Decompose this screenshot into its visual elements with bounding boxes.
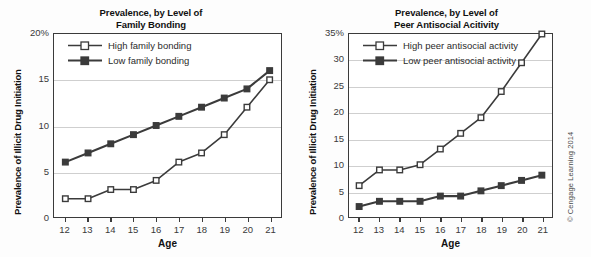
x-axis-tick-mark	[65, 218, 66, 222]
data-point-marker	[85, 150, 91, 156]
data-point-marker	[131, 187, 137, 193]
x-axis-tick-mark	[543, 218, 544, 222]
legend-item-low-family-bonding: Low family bonding	[68, 53, 191, 68]
data-point-marker	[85, 196, 91, 202]
legend-label: Low peer antisocial activity	[403, 55, 516, 66]
legend-item-high-family-bonding: High family bonding	[68, 38, 191, 53]
x-axis-tick-label: 12	[54, 225, 76, 235]
chart-title-line-1: Prevalence, by Level of	[20, 7, 282, 19]
x-axis-tick-label: 17	[450, 225, 472, 235]
x-axis-tick-label: 21	[260, 225, 282, 235]
data-point-marker	[63, 196, 69, 202]
x-axis-tick-mark	[502, 218, 503, 222]
chart-title-family-bonding: Prevalence, by Level of Family Bonding	[20, 7, 282, 30]
data-point-marker	[458, 131, 464, 137]
legend-peer-antisocial-activity: High peer antisocial activity Low peer a…	[363, 38, 518, 68]
data-point-marker	[397, 167, 403, 173]
y-axis-label-left: Prevalence of Illicit Drug Initiation	[12, 69, 23, 215]
data-point-marker	[199, 104, 205, 110]
data-point-marker	[397, 199, 403, 205]
two-panel-line-chart-figure: Prevalence, by Level of Family Bonding P…	[0, 0, 591, 257]
x-axis-tick-mark	[522, 218, 523, 222]
x-axis-tick-mark	[379, 218, 380, 222]
x-axis-label-left: Age	[53, 238, 282, 249]
series-low	[356, 172, 544, 209]
series-low	[63, 68, 273, 165]
x-axis-tick-label: 18	[470, 225, 492, 235]
y-axis-tick-label: 15	[306, 134, 344, 144]
x-axis-tick-mark	[225, 218, 226, 222]
chart-title-peer-antisocial-activity: Prevalence, by Level of Peer Antisocial …	[316, 7, 577, 30]
data-point-marker	[199, 150, 205, 156]
legend-marker-open-square-icon	[68, 40, 102, 51]
x-axis-tick-mark	[271, 218, 272, 222]
y-axis-tick-label: 15	[11, 74, 49, 84]
x-axis-tick-label: 18	[191, 225, 213, 235]
x-axis-tick-label: 14	[99, 225, 121, 235]
x-axis-tick-label: 12	[347, 225, 369, 235]
x-axis-tick-mark	[461, 218, 462, 222]
chart-title-line-1: Prevalence, by Level of	[316, 7, 577, 19]
data-point-marker	[539, 31, 545, 37]
x-axis-tick-label: 20	[237, 225, 259, 235]
data-point-marker	[438, 146, 444, 152]
x-axis-tick-label: 19	[491, 225, 513, 235]
legend-label: High peer antisocial activity	[403, 40, 518, 51]
y-axis-tick-label: 20%	[11, 28, 49, 38]
data-point-marker	[438, 193, 444, 199]
x-axis-tick-mark	[481, 218, 482, 222]
data-point-marker	[478, 188, 484, 194]
x-axis-tick-label: 19	[214, 225, 236, 235]
data-point-marker	[417, 199, 423, 205]
x-axis-tick-label: 13	[76, 225, 98, 235]
chart-panel-family-bonding: Prevalence, by Level of Family Bonding P…	[0, 0, 296, 257]
data-point-marker	[458, 193, 464, 199]
x-axis-tick-mark	[156, 218, 157, 222]
y-axis-tick-label: 0	[11, 213, 49, 223]
x-axis-tick-mark	[179, 218, 180, 222]
data-point-marker	[244, 86, 250, 92]
x-axis-tick-label: 17	[168, 225, 190, 235]
data-point-marker	[377, 167, 383, 173]
legend-label: Low family bonding	[108, 55, 189, 66]
x-axis-tick-mark	[133, 218, 134, 222]
data-point-marker	[498, 183, 504, 189]
data-point-marker	[267, 68, 273, 74]
data-point-marker	[377, 199, 383, 205]
y-axis-tick-label: 0	[306, 213, 344, 223]
legend-marker-filled-square-icon	[363, 55, 397, 66]
legend-item-low-peer-antisocial-activity: Low peer antisocial activity	[363, 53, 518, 68]
copyright-credit: © Cengage Learning 2014	[566, 132, 575, 222]
legend-marker-filled-square-icon	[68, 55, 102, 66]
y-axis-tick-label: 35%	[306, 28, 344, 38]
legend-label: High family bonding	[108, 40, 191, 51]
y-axis-tick-label: 10	[11, 121, 49, 131]
y-axis-tick-label: 25	[306, 81, 344, 91]
data-point-marker	[498, 89, 504, 95]
data-point-marker	[176, 159, 182, 165]
data-point-marker	[221, 132, 227, 138]
x-axis-tick-label: 13	[368, 225, 390, 235]
x-axis-tick-mark	[358, 218, 359, 222]
x-axis-tick-label: 16	[429, 225, 451, 235]
data-point-marker	[519, 178, 525, 184]
data-point-marker	[417, 162, 423, 168]
x-axis-tick-mark	[248, 218, 249, 222]
x-axis-tick-label: 15	[122, 225, 144, 235]
chart-title-line-2: Peer Antisocial Acitivity	[316, 19, 577, 31]
data-point-marker	[267, 77, 273, 83]
data-point-marker	[153, 178, 159, 184]
legend-marker-open-square-icon	[363, 40, 397, 51]
x-axis-tick-mark	[110, 218, 111, 222]
data-point-marker	[63, 159, 69, 165]
x-axis-tick-mark	[420, 218, 421, 222]
data-point-marker	[519, 60, 525, 66]
x-axis-tick-label: 21	[532, 225, 554, 235]
legend-family-bonding: High family bonding Low family bonding	[68, 38, 191, 68]
x-axis-tick-mark	[87, 218, 88, 222]
data-point-marker	[539, 172, 545, 178]
x-axis-tick-label: 20	[511, 225, 533, 235]
x-axis-tick-label: 16	[145, 225, 167, 235]
y-axis-tick-label: 30	[306, 54, 344, 64]
data-point-marker	[176, 114, 182, 120]
